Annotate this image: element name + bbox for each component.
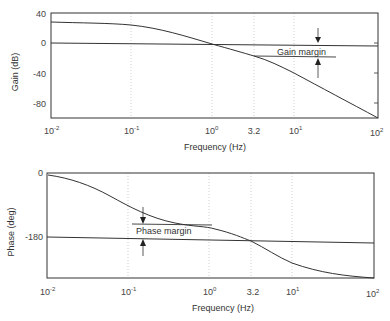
gain-xtick-1e-2: 10-2	[44, 125, 60, 136]
phase-minus180-line	[47, 237, 374, 243]
gain-plot: Gain margin 40 0 -40 -80 10-2 10-1 100 3…	[10, 9, 384, 152]
gain-xlabel: Frequency (Hz)	[184, 142, 246, 152]
phase-margin-line	[132, 224, 212, 225]
phase-plot: Phase margin 0 -180 10-2 10-1 100 3.2 10…	[6, 168, 380, 313]
gain-ytick-0: 0	[41, 38, 46, 48]
phase-ylabel: Phase (deg)	[6, 207, 16, 256]
phase-xtick-1e0: 100	[203, 286, 217, 297]
gain-xtick-1e2: 102	[370, 127, 384, 138]
phase-xtick-1e-1: 10-1	[121, 286, 137, 297]
gain-ylabel: Gain (dB)	[10, 53, 20, 92]
phase-margin-arrow-up	[140, 239, 146, 256]
phase-ytick-minus180: -180	[25, 232, 43, 242]
phase-curve	[48, 175, 374, 278]
gain-margin-arrow-down	[315, 28, 321, 43]
gain-ytick-40: 40	[36, 9, 46, 19]
gain-ytick-minus40: -40	[33, 69, 46, 79]
gain-plot-frame	[51, 13, 378, 118]
phase-xtick-1e-2: 10-2	[40, 286, 56, 297]
bode-plot-figure: Gain margin 40 0 -40 -80 10-2 10-1 100 3…	[0, 0, 390, 321]
gain-curve	[51, 22, 378, 118]
phase-xlabel: Frequency (Hz)	[192, 303, 254, 313]
phase-margin-label: Phase margin	[136, 226, 192, 236]
phase-ytick-0: 0	[38, 168, 43, 178]
phase-xtick-1e1: 101	[286, 286, 300, 297]
gain-ytick-minus80: -80	[33, 99, 46, 109]
gain-margin-arrow-up	[315, 58, 321, 78]
gain-xtick-1e0: 100	[205, 125, 219, 136]
gain-xtick-3-2: 3.2	[248, 126, 261, 136]
phase-xtick-1e2: 102	[366, 288, 380, 299]
gain-xtick-1e1: 101	[289, 125, 303, 136]
phase-xtick-3-2: 3.2	[247, 287, 260, 297]
gain-margin-label: Gain margin	[277, 47, 326, 57]
gain-xtick-1e-1: 10-1	[124, 125, 140, 136]
phase-margin-arrow-down	[140, 207, 146, 224]
